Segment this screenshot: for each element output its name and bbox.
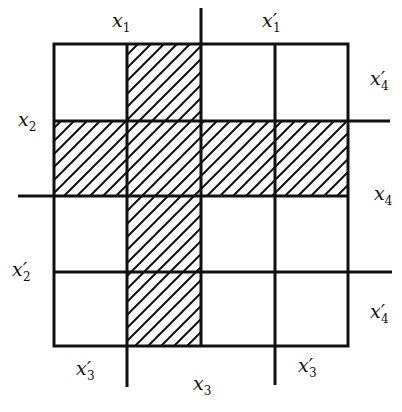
label-x3: x3 xyxy=(193,372,211,398)
cell-r0-c1 xyxy=(127,45,201,121)
label-x1: x1 xyxy=(112,9,130,35)
label-x2-prime: x′2 xyxy=(12,258,31,284)
grid-lines xyxy=(18,8,392,387)
label-x4-prime-bottom: x′4 xyxy=(370,300,389,326)
cell-r3-c1 xyxy=(127,272,201,346)
label-x3-prime-left: x′3 xyxy=(76,357,95,383)
cell-r1-c0 xyxy=(54,121,127,196)
label-x4: x4 xyxy=(374,182,393,208)
label-x3-prime-right: x′3 xyxy=(298,354,317,380)
cell-r1-c1 xyxy=(127,121,201,196)
cell-r1-c3 xyxy=(275,121,348,196)
label-x1-prime: x′1 xyxy=(262,9,281,35)
cell-r2-c1 xyxy=(127,196,201,272)
karnaugh-map-diagram: x1 x′1 x′4 x2 x4 x′2 x′4 x′3 x3 x′3 xyxy=(0,0,402,412)
cell-r1-c2 xyxy=(201,121,275,196)
label-x4-prime-top: x′4 xyxy=(370,67,389,93)
label-x2: x2 xyxy=(18,108,36,134)
